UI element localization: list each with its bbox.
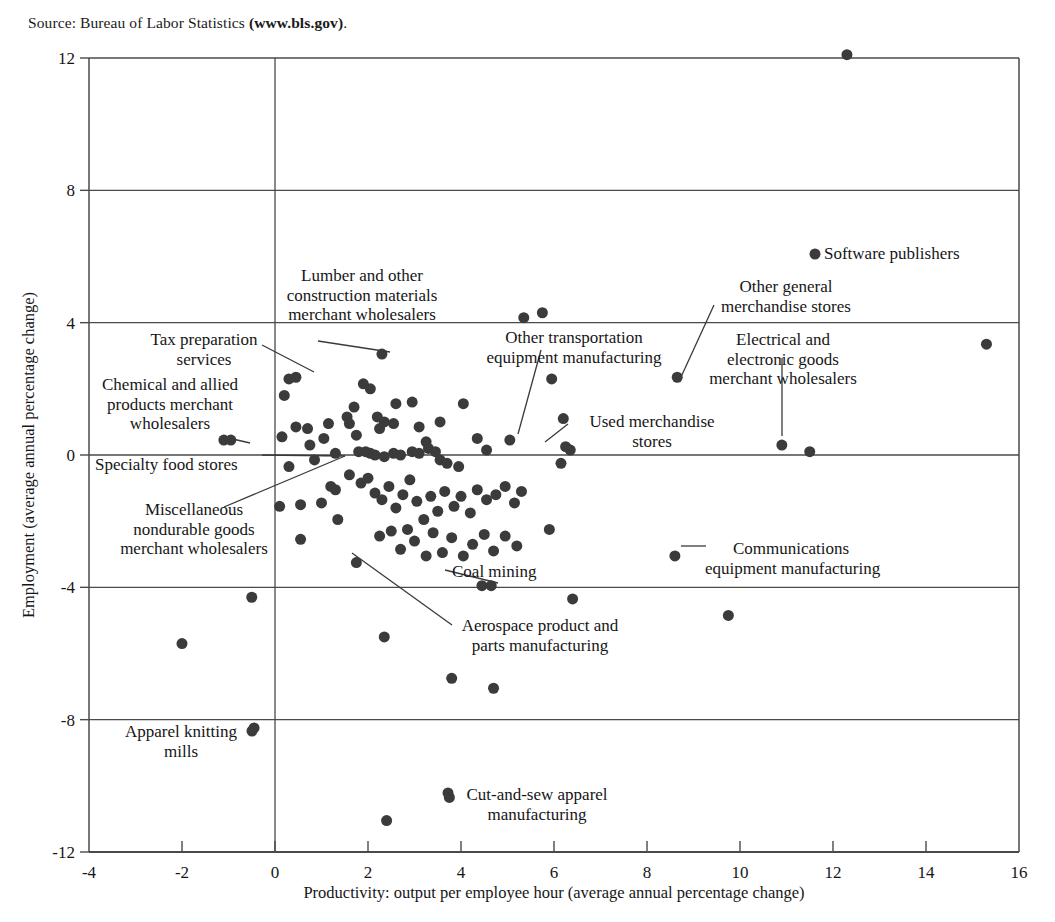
svg-text:8: 8: [67, 181, 76, 200]
annotation-cut-and-sew: Cut-and-sew apparel manufacturing: [457, 785, 617, 824]
annotation-lumber-construction: Lumber and other construction materials …: [277, 266, 447, 325]
svg-text:-4: -4: [61, 578, 76, 597]
annotation-coal-mining: Coal mining: [452, 562, 572, 582]
svg-text:6: 6: [550, 863, 559, 882]
svg-text:Productivity: output per emplo: Productivity: output per employee hour (…: [303, 883, 804, 902]
annotation-chemical-allied: Chemical and allied products merchant wh…: [90, 375, 250, 434]
svg-text:-4: -4: [82, 863, 97, 882]
annotation-communications-equipment: Communications equipment manufacturing: [705, 539, 877, 578]
annotation-used-merchandise: Used merchandise stores: [572, 412, 732, 451]
annotation-tax-preparation: Tax preparation services: [133, 330, 275, 369]
svg-text:14: 14: [918, 863, 936, 882]
chart-page: Source: Bureau of Labor Statistics (www.…: [0, 0, 1055, 922]
svg-text:4: 4: [67, 314, 76, 333]
annotation-other-general-merchandise: Other general merchandise stores: [706, 277, 866, 316]
svg-text:-2: -2: [175, 863, 189, 882]
svg-text:-8: -8: [61, 711, 75, 730]
annotation-other-transportation: Other transportation equipment manufactu…: [478, 328, 670, 367]
svg-text:2: 2: [364, 863, 373, 882]
svg-text:-12: -12: [52, 843, 75, 862]
svg-text:8: 8: [643, 863, 652, 882]
annotation-specialty-food: Specialty food stores: [95, 455, 275, 475]
annotation-apparel-knitting: Apparel knitting mills: [112, 722, 250, 761]
annotation-misc-nondurable: Miscellaneous nondurable goods merchant …: [110, 500, 278, 559]
svg-text:12: 12: [825, 863, 842, 882]
svg-text:Employment (average annual per: Employment (average annual percentage ch…: [19, 292, 38, 618]
annotation-electrical-electronic: Electrical and electronic goods merchant…: [694, 330, 872, 389]
svg-text:0: 0: [67, 446, 76, 465]
svg-text:16: 16: [1011, 863, 1028, 882]
annotation-software-publishers: Software publishers: [824, 244, 1004, 264]
annotation-aerospace-product: Aerospace product and parts manufacturin…: [447, 616, 633, 655]
svg-text:4: 4: [457, 863, 466, 882]
svg-text:0: 0: [271, 863, 280, 882]
svg-text:12: 12: [58, 49, 75, 68]
svg-text:10: 10: [732, 863, 749, 882]
